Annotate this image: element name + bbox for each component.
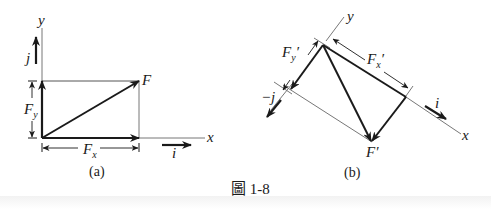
label-y-axis-a: y — [38, 13, 45, 28]
label-x-axis-a: x — [207, 130, 214, 145]
label-f-a: F — [142, 73, 151, 88]
guide-parallel-x — [283, 85, 372, 142]
y-axis-rotated — [326, 17, 344, 41]
panel-a — [28, 28, 205, 152]
label-fy-prime-b: Fy′ — [282, 45, 299, 63]
panel-b-label: (b) — [344, 166, 360, 180]
label-fx-prime-b: Fx′ — [367, 52, 384, 70]
label-f-prime-b: F′ — [366, 145, 378, 160]
caption-prefix: 圖 — [231, 181, 246, 197]
label-y-axis-b: y — [347, 9, 354, 24]
page-edge-shadow — [0, 196, 491, 209]
vector-f — [42, 81, 139, 138]
panel-b — [267, 17, 461, 142]
figure-caption: 圖 1-8 — [231, 182, 270, 197]
fy-symbol: F — [24, 101, 33, 117]
label-j-a: j — [26, 51, 30, 66]
fy-prime-mark: ′ — [296, 44, 299, 60]
label-fy-a: Fy — [24, 102, 38, 120]
force-diagram — [0, 0, 491, 209]
caption-number: 1-8 — [250, 181, 270, 197]
label-neg-j-b: −j — [261, 90, 275, 105]
panel-a-label: (a) — [89, 165, 105, 179]
label-fx-a: Fx — [83, 142, 97, 160]
x-axis-rotated — [406, 97, 461, 134]
fy-prime-symbol: F — [282, 44, 291, 60]
fx-prime-symbol: F — [367, 51, 376, 67]
fx-prime-mark: ′ — [381, 51, 384, 67]
fx-symbol: F — [83, 141, 92, 157]
label-i-a: i — [172, 146, 176, 161]
fx-subscript: x — [92, 149, 96, 160]
label-x-axis-b: x — [462, 128, 469, 143]
label-i-b: i — [435, 96, 439, 111]
fx-prime-dim-left — [333, 39, 365, 60]
fy-subscript: y — [33, 109, 37, 120]
vector-fx-to-f-prime — [372, 97, 406, 141]
